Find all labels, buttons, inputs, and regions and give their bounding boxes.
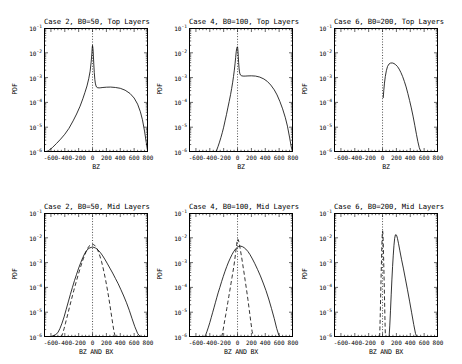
plot-panel-case6-mid: Case 6, B0=200, Mid Layers10-110-210-310… [294, 202, 446, 360]
tick-marks [189, 213, 293, 337]
tick-marks [334, 213, 438, 337]
panel-title: Case 6, B0=200, Top Layers [334, 17, 438, 26]
x-tick-label: -600 [189, 154, 203, 161]
x-tick-label: 200 [101, 339, 112, 346]
panel-title: Case 2, B0=50, Top Layers [44, 17, 148, 26]
x-tick-label: -200 [216, 154, 230, 161]
x-tick-label: -400 [58, 339, 72, 346]
plot-panel-case2-top: Case 2, B0=50, Top Layers10-110-210-310-… [4, 17, 156, 175]
data-curve-bz-solid [215, 47, 293, 152]
plot-area [189, 28, 293, 152]
y-tick-label: 10-1 [302, 24, 332, 32]
y-tick-label: 10-6 [12, 333, 42, 341]
x-tick-label: 200 [101, 154, 112, 161]
x-tick-label: 200 [391, 154, 402, 161]
tick-marks [44, 213, 148, 337]
plot-area [44, 213, 148, 337]
x-tick-label: -400 [348, 154, 362, 161]
x-tick-label: 200 [246, 154, 257, 161]
y-axis-label: PDF [301, 259, 309, 289]
tick-marks [44, 28, 148, 152]
x-tick-label: 0 [236, 154, 240, 161]
x-axis-label: BZ [44, 163, 148, 171]
x-axis-label: BZ AND BX [44, 348, 148, 356]
x-tick-label: 600 [419, 154, 430, 161]
x-axis-label: BZ [334, 163, 438, 171]
x-tick-label: -200 [361, 154, 375, 161]
x-tick-label: 600 [129, 154, 140, 161]
y-tick-label: 10-6 [12, 148, 42, 156]
x-tick-label: 400 [260, 339, 271, 346]
panel-title: Case 4, B0=100, Top Layers [189, 17, 293, 26]
y-tick-label: 10-5 [157, 123, 187, 131]
x-axis-label: BZ [189, 163, 293, 171]
y-tick-label: 10-2 [157, 49, 187, 57]
y-tick-label: 10-6 [302, 148, 332, 156]
data-curve-bz-solid [383, 63, 423, 152]
x-tick-label: -200 [71, 154, 85, 161]
data-curve-bz-solid [44, 45, 148, 152]
x-axis-label: BZ AND BX [189, 348, 293, 356]
x-tick-label: -600 [334, 154, 348, 161]
x-tick-label: 600 [274, 339, 285, 346]
plot-panel-case6-top: Case 6, B0=200, Top Layers10-110-210-310… [294, 17, 446, 175]
plot-area [44, 28, 148, 152]
panel-title: Case 4, B0=100, Mid Layers [189, 202, 293, 211]
x-tick-label: 0 [91, 339, 95, 346]
y-axis-label: PDF [301, 74, 309, 104]
x-tick-label: 0 [91, 154, 95, 161]
x-tick-label: 400 [115, 339, 126, 346]
x-tick-label: 400 [115, 154, 126, 161]
y-tick-label: 10-2 [302, 49, 332, 57]
y-tick-label: 10-1 [157, 24, 187, 32]
x-tick-label: -200 [361, 339, 375, 346]
data-curve-bz-solid [389, 235, 418, 337]
y-tick-label: 10-2 [12, 49, 42, 57]
x-tick-label: 800 [433, 339, 444, 346]
x-tick-label: 400 [260, 154, 271, 161]
y-tick-label: 10-5 [302, 308, 332, 316]
data-curve-bx-dashed [61, 244, 116, 337]
x-tick-label: 800 [433, 154, 444, 161]
y-axis-label: PDF [156, 259, 164, 289]
x-tick-label: 600 [419, 339, 430, 346]
x-tick-label: -200 [71, 339, 85, 346]
y-axis-label: PDF [11, 259, 19, 289]
tick-marks [334, 28, 438, 152]
y-tick-label: 10-2 [157, 234, 187, 242]
plot-area [189, 213, 293, 337]
y-tick-label: 10-2 [302, 234, 332, 242]
y-tick-label: 10-1 [302, 209, 332, 217]
x-tick-label: -600 [44, 154, 58, 161]
data-curve-bz-solid [44, 247, 148, 337]
y-tick-label: 10-6 [157, 148, 187, 156]
y-tick-label: 10-5 [12, 123, 42, 131]
plot-panel-case4-top: Case 4, B0=100, Top Layers10-110-210-310… [149, 17, 301, 175]
tick-marks [189, 28, 293, 152]
x-tick-label: -200 [216, 339, 230, 346]
x-tick-label: 200 [391, 339, 402, 346]
y-tick-label: 10-5 [157, 308, 187, 316]
x-tick-label: 200 [246, 339, 257, 346]
figure-canvas: Case 2, B0=50, Top Layers10-110-210-310-… [0, 0, 462, 364]
x-tick-label: 600 [129, 339, 140, 346]
y-axis-label: PDF [156, 74, 164, 104]
x-tick-label: -600 [44, 339, 58, 346]
x-axis-label: BZ AND BX [334, 348, 438, 356]
plot-panel-case2-mid: Case 2, B0=50, Mid Layers10-110-210-310-… [4, 202, 156, 360]
y-tick-label: 10-1 [157, 209, 187, 217]
y-tick-label: 10-5 [302, 123, 332, 131]
panel-title: Case 6, B0=200, Mid Layers [334, 202, 438, 211]
x-tick-label: 0 [236, 339, 240, 346]
x-tick-label: -600 [189, 339, 203, 346]
x-tick-label: -600 [334, 339, 348, 346]
data-curve-bz-solid [204, 246, 284, 337]
x-tick-label: 400 [405, 339, 416, 346]
x-tick-label: 0 [381, 339, 385, 346]
plot-panel-case4-mid: Case 4, B0=100, Mid Layers10-110-210-310… [149, 202, 301, 360]
plot-area [334, 213, 438, 337]
y-tick-label: 10-2 [12, 234, 42, 242]
plot-area [334, 28, 438, 152]
x-tick-label: -400 [58, 154, 72, 161]
y-tick-label: 10-1 [12, 24, 42, 32]
